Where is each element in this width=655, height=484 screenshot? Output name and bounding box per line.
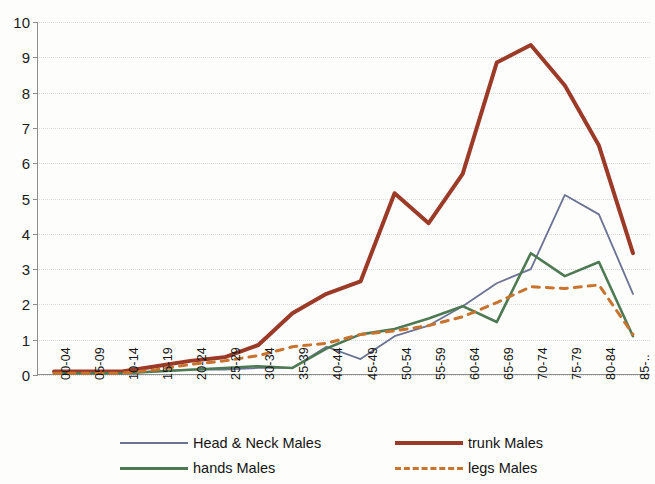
x-axis-tick-label: 05-09 — [93, 347, 107, 380]
y-axis-tick-label: 9 — [4, 50, 30, 65]
y-axis-tick-label: 6 — [4, 156, 30, 171]
x-axis-tick-label: 25-29 — [229, 347, 243, 380]
y-axis-tick-label: 10 — [4, 15, 30, 30]
y-axis-tick — [33, 375, 38, 376]
x-axis-tick-label: 80-84 — [604, 347, 618, 380]
x-axis-tick-label: 70-74 — [536, 347, 550, 380]
legend-swatch-icon — [395, 441, 463, 445]
legend-label: Head & Neck Males — [193, 436, 321, 451]
x-axis-tick-label: 10-14 — [127, 347, 141, 380]
y-axis-labels: 012345678910 — [0, 22, 30, 375]
x-axis-tick-label: 20-24 — [195, 347, 209, 380]
y-axis-tick-label: 0 — [4, 368, 30, 383]
series-lines — [37, 22, 650, 375]
x-axis-tick-label: 30-34 — [263, 347, 277, 380]
legend-item-head-neck-males[interactable]: Head & Neck Males — [120, 432, 395, 454]
legend-item-legs-males[interactable]: legs Males — [395, 457, 537, 479]
y-axis-tick-label: 7 — [4, 120, 30, 135]
x-axis-tick-label: 35-39 — [297, 347, 311, 380]
chart-legend: Head & Neck Males trunk Males hands Male… — [120, 432, 590, 480]
x-axis-tick-label: 45-49 — [366, 347, 380, 380]
legend-row-2: hands Males legs Males — [120, 457, 537, 479]
y-axis-tick-label: 4 — [4, 226, 30, 241]
legend-swatch-icon — [395, 467, 463, 470]
x-axis-tick-label: 15-19 — [161, 347, 175, 380]
y-axis-tick-label: 5 — [4, 191, 30, 206]
x-axis-tick-label: 00-04 — [59, 347, 73, 380]
legend-swatch-icon — [120, 467, 188, 470]
line-chart: 012345678910 00-0405-0910-1415-1920-2425… — [0, 0, 655, 484]
legend-label: trunk Males — [468, 436, 543, 451]
series-line — [54, 45, 633, 372]
x-axis-tick-label: 40-44 — [331, 347, 345, 380]
legend-label: legs Males — [468, 461, 537, 476]
plot-area — [37, 22, 650, 375]
legend-row-1: Head & Neck Males trunk Males — [120, 432, 543, 454]
legend-swatch-icon — [120, 442, 188, 444]
y-axis-tick-label: 2 — [4, 297, 30, 312]
y-axis-tick-label: 1 — [4, 332, 30, 347]
legend-item-trunk-males[interactable]: trunk Males — [395, 432, 543, 454]
x-axis-tick-label: 75-79 — [570, 347, 584, 380]
legend-item-hands-males[interactable]: hands Males — [120, 457, 395, 479]
y-axis-tick-label: 8 — [4, 85, 30, 100]
x-axis-tick-label: 60-64 — [468, 347, 482, 380]
x-axis-tick-label: 55-59 — [434, 347, 448, 380]
legend-label: hands Males — [193, 461, 275, 476]
x-axis-labels: 00-0405-0910-1415-1920-2425-2930-3435-39… — [37, 378, 650, 434]
y-axis-tick-label: 3 — [4, 262, 30, 277]
x-axis-tick-label: 85-.. — [638, 354, 652, 380]
x-axis-tick-label: 50-54 — [400, 347, 414, 380]
x-axis-tick-label: 65-69 — [502, 347, 516, 380]
